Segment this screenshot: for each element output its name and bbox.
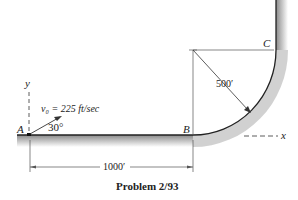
point-c-label: C bbox=[263, 38, 270, 49]
distance-label: 1000′ bbox=[103, 162, 125, 172]
point-b-label: B bbox=[183, 124, 190, 135]
y-axis-label: y bbox=[25, 78, 30, 89]
radius-label: 500′ bbox=[216, 79, 233, 89]
figure-caption: Problem 2/93 bbox=[116, 180, 178, 192]
track-line bbox=[17, 0, 276, 135]
angle-label: 30° bbox=[48, 122, 63, 133]
x-axis-label: x bbox=[281, 130, 286, 141]
velocity-label: v₀ = 225 ft/sec bbox=[41, 104, 99, 114]
point-a-label: A bbox=[17, 124, 24, 135]
problem-diagram bbox=[0, 0, 298, 200]
